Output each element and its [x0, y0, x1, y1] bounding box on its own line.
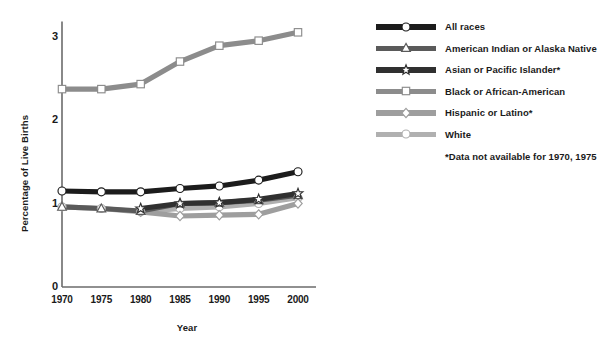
legend-swatch-diamond-icon — [376, 108, 436, 117]
legend-label: White — [445, 130, 471, 140]
legend-item[interactable]: Asian or Pacific Islander* — [376, 59, 602, 81]
chart-container: Percentage of Live Births 0123 197019751… — [0, 0, 603, 359]
legend-label: Black or African-American — [445, 87, 565, 97]
data-point-square — [176, 58, 183, 65]
legend-item[interactable]: White — [376, 124, 602, 146]
data-point-star — [401, 65, 411, 74]
legend-label: Hispanic or Latino* — [445, 108, 533, 118]
x-tick-label: 1990 — [197, 294, 241, 305]
data-point-circle — [402, 23, 410, 31]
chart-legend: All racesAmerican Indian or Alaska Nativ… — [376, 16, 602, 162]
data-point-square — [58, 85, 65, 92]
legend-footnote: *Data not available for 1970, 1975 — [445, 151, 602, 162]
x-axis-title: Year — [62, 322, 312, 333]
data-point-circle — [215, 182, 223, 190]
data-point-diamond — [402, 108, 410, 117]
legend-swatch-circle-icon — [376, 130, 436, 139]
data-point-diamond — [215, 211, 223, 220]
data-point-square — [255, 37, 262, 44]
legend-item[interactable]: Black or African-American — [376, 81, 602, 103]
data-point-circle — [58, 187, 66, 195]
data-point-square — [216, 42, 223, 49]
legend-item[interactable]: Hispanic or Latino* — [376, 102, 602, 124]
data-point-circle — [402, 130, 410, 138]
x-tick-label: 1980 — [119, 294, 163, 305]
data-point-circle — [97, 188, 105, 196]
legend-label: American Indian or Alaska Native — [445, 44, 597, 54]
data-point-square — [98, 85, 105, 92]
x-tick-label: 1995 — [237, 294, 281, 305]
data-point-diamond — [176, 211, 184, 220]
x-tick-label: 1970 — [40, 294, 84, 305]
legend-label: Asian or Pacific Islander* — [445, 65, 560, 75]
data-point-square — [402, 88, 409, 95]
legend-swatch-circle-icon — [376, 22, 436, 31]
legend-label: All races — [445, 22, 485, 32]
legend-item[interactable]: All races — [376, 16, 602, 38]
x-tick-label: 1985 — [158, 294, 202, 305]
data-point-triangle — [402, 44, 411, 52]
data-point-circle — [255, 176, 263, 184]
x-tick-label: 1975 — [79, 294, 123, 305]
data-point-square — [137, 80, 144, 87]
x-tick-label: 2000 — [276, 294, 320, 305]
legend-swatch-square-icon — [376, 87, 436, 96]
legend-swatch-triangle-icon — [376, 44, 436, 53]
data-point-circle — [294, 168, 302, 176]
legend-item[interactable]: American Indian or Alaska Native — [376, 38, 602, 60]
legend-swatch-star-icon — [376, 65, 436, 74]
data-point-square — [294, 29, 301, 36]
data-point-circle — [137, 188, 145, 196]
data-point-circle — [176, 184, 184, 192]
